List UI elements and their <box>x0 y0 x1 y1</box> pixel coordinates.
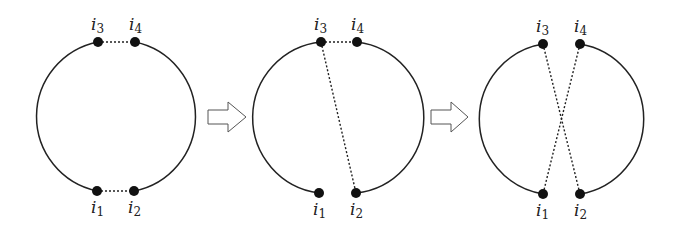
label-i1: i1 <box>536 200 549 222</box>
right-arc <box>356 42 424 193</box>
left-arc <box>253 42 321 193</box>
label-i3: i3 <box>91 14 104 36</box>
node-i3 <box>538 39 548 49</box>
dotted-link-i3-i2 <box>321 42 356 193</box>
dotted-link-i4-i1 <box>543 44 580 194</box>
node-i1 <box>92 186 102 196</box>
left-arc <box>479 44 543 194</box>
label-i4: i4 <box>574 16 587 38</box>
label-i4: i4 <box>351 14 364 36</box>
label-i2: i2 <box>128 197 141 219</box>
node-i1 <box>538 189 548 199</box>
label-i3: i3 <box>314 14 327 36</box>
node-i4 <box>575 39 585 49</box>
node-i4 <box>130 37 140 47</box>
label-i1: i1 <box>313 199 326 221</box>
node-i1 <box>314 188 324 198</box>
left-arc <box>37 42 98 191</box>
label-i1: i1 <box>91 197 104 219</box>
label-i3: i3 <box>536 16 549 38</box>
node-i2 <box>351 188 361 198</box>
label-i2: i2 <box>350 199 363 221</box>
node-i2 <box>129 186 139 196</box>
label-i2: i2 <box>574 200 587 222</box>
right-arc <box>134 42 195 191</box>
arrow-right-icon <box>431 102 468 132</box>
right-arc <box>580 44 644 194</box>
label-i4: i4 <box>129 14 142 36</box>
panel-3: i3 i4 i1 i2 <box>479 16 643 222</box>
node-i3 <box>93 37 103 47</box>
panel-1: i3 i4 i1 i2 <box>37 14 196 219</box>
node-i3 <box>316 37 326 47</box>
node-i4 <box>352 37 362 47</box>
panel-2: i3 i4 i1 i2 <box>253 14 424 221</box>
node-i2 <box>575 189 585 199</box>
arrow-right-icon <box>208 102 246 132</box>
diagram-canvas: i3 i4 i1 i2 i3 i4 i1 i2 i3 i4 i1 i2 <box>0 0 677 235</box>
